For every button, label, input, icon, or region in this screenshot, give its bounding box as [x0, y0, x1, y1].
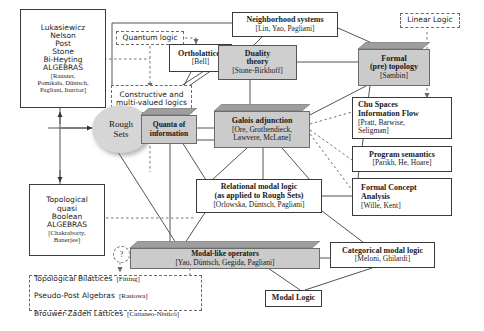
- node-formal-topology[interactable]: Formal (pre) topology [Sambin]: [358, 42, 430, 86]
- lattice-name-1: Pseudo-Post Algebras: [34, 291, 115, 300]
- diagram-canvas: Lukasiewicz Nelson Post Stone Bi-Heyting…: [0, 0, 484, 331]
- linear-logic-label: Linear Logic: [407, 16, 452, 24]
- formal-topology-slab-top: [358, 42, 430, 49]
- formal-ref: [Sambin]: [380, 72, 408, 80]
- lattice-item-1: Pseudo-Post Algebras [Rasiowa]: [34, 284, 148, 301]
- ortholattices-ref: [Bell]: [192, 58, 210, 66]
- neighborhood-ref: [Lin, Yao, Pagliani]: [256, 25, 315, 33]
- node-categorical-modal-logic[interactable]: Categorical modal logic [Meloni, Ghilard…: [330, 242, 435, 268]
- galois-ref-2: Lawvere, McLane]: [233, 134, 290, 142]
- node-quanta-of-information[interactable]: Quanta of information: [141, 108, 197, 144]
- node-topological-quasi-boolean[interactable]: Topological quasi Boolean ALGEBRAS [Chak…: [29, 184, 105, 256]
- lattice-name-0: Topological Bilattices: [34, 274, 112, 283]
- galois-body: Galois adjunction [Ore, Grothendieck, La…: [214, 111, 310, 148]
- tqb-ref-1: [Chakraborty,: [48, 229, 86, 236]
- quanta-slab-top: [141, 108, 197, 115]
- node-quantum-logic[interactable]: Quantum logic: [116, 31, 184, 45]
- node-program-semantics[interactable]: Program semantics [Parikh, He, Hoare]: [352, 146, 452, 172]
- algebras-ref-1: Pomikała, Düntsch,: [37, 79, 88, 86]
- program-semantics-ref: [Parikh, He, Hoare]: [372, 159, 431, 167]
- node-duality-theory[interactable]: Duality theory [Stone-Birkhoff]: [218, 45, 297, 80]
- node-formal-concept-analysis[interactable]: Formal Concept Analysis [Wille, Kent]: [352, 178, 452, 216]
- node-relational-modal-logic[interactable]: Relational modal logic (as applied to Ro…: [196, 179, 322, 213]
- question-mark-label: ?: [120, 250, 124, 259]
- node-chu-spaces[interactable]: Chu Spaces Information Flow [Pratt, Barw…: [352, 97, 452, 139]
- galois-slab-top: [214, 104, 310, 111]
- node-modal-like-operators[interactable]: Modal-like operators [Yao, Düntsch, Gegi…: [130, 241, 320, 269]
- quantum-logic-label: Quantum logic: [122, 34, 177, 42]
- node-neighborhood-systems[interactable]: Neighborhood systems [Lin, Yao, Pagliani…: [232, 12, 338, 37]
- lattice-name-2: Brouwer-Zadeh Lattices: [34, 309, 123, 318]
- node-question-mark[interactable]: ?: [113, 246, 130, 263]
- chu-ref-2: Seligman]: [358, 127, 389, 135]
- modal-logic-label: Modal Logic: [272, 294, 315, 303]
- algebras-ref-0: [Rauszer,: [51, 72, 75, 79]
- formal-topology-body: Formal (pre) topology [Sambin]: [358, 49, 430, 86]
- algebras-line-5: ALGEBRAS: [43, 64, 83, 72]
- modal-like-ref: [Yao, Düntsch, Gegida, Pagliani]: [175, 259, 274, 267]
- modal-like-slab-top: [130, 241, 320, 248]
- fca-ref: [Wille, Kent]: [361, 202, 401, 210]
- categorical-ref: [Meloni, Ghilardi]: [355, 255, 410, 263]
- lattice-item-2: Brouwer-Zadeh Lattices [Cattaneo-Nisticò…: [34, 302, 179, 319]
- tqb-line-3: ALGEBRAS: [47, 221, 87, 229]
- quanta-body: Quanta of information: [141, 115, 197, 144]
- node-algebras-left[interactable]: Lukasiewicz Nelson Post Stone Bi-Heyting…: [20, 9, 106, 108]
- lattice-ref-1: [Rasiowa]: [119, 292, 148, 300]
- node-lattices-list[interactable]: Topological Bilattices [Fitting] Pseudo-…: [29, 275, 202, 311]
- modal-like-body: Modal-like operators [Yao, Düntsch, Gegi…: [130, 248, 320, 269]
- rough-sets-line-2: Sets: [113, 129, 128, 139]
- relational-ref: [Orlowska, Düntsch, Pagliani]: [213, 201, 304, 209]
- tqb-ref-2: Banerjee]: [54, 236, 80, 243]
- node-galois-adjunction[interactable]: Galois adjunction [Ore, Grothendieck, La…: [214, 104, 310, 148]
- quanta-line-2: information: [150, 130, 188, 138]
- lattice-item-0: Topological Bilattices [Fitting]: [34, 267, 140, 284]
- node-modal-logic[interactable]: Modal Logic: [265, 290, 322, 307]
- lattice-ref-2: [Cattaneo-Nisticò]: [127, 310, 179, 318]
- duality-ref: [Stone-Birkhoff]: [232, 67, 282, 75]
- rough-sets-line-1: Rough: [109, 119, 133, 129]
- lattice-ref-0: [Fitting]: [116, 275, 139, 283]
- node-linear-logic[interactable]: Linear Logic: [400, 13, 460, 28]
- algebras-ref-2: Pagliani, Iturrioz]: [40, 86, 86, 93]
